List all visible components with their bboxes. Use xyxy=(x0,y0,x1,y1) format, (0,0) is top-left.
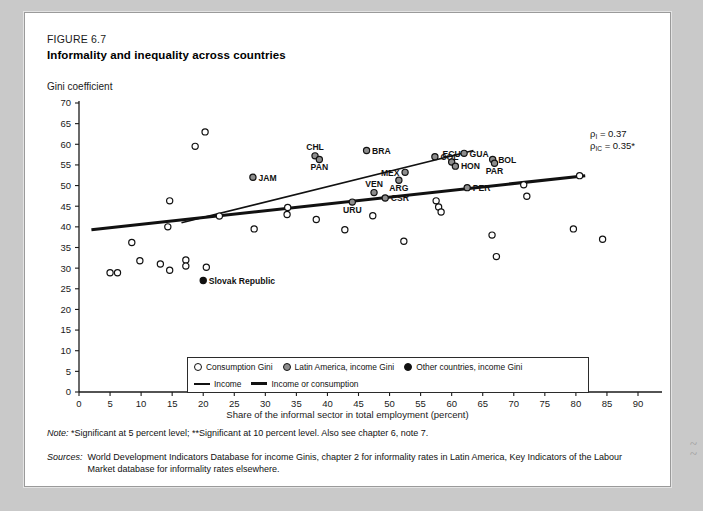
data-point xyxy=(284,211,290,217)
data-point xyxy=(438,209,444,215)
data-point xyxy=(401,238,407,244)
figure-note: Note: *Significant at 5 percent level; *… xyxy=(47,427,652,439)
data-point xyxy=(165,224,171,230)
point-label-gua: GUA xyxy=(470,149,489,159)
y-tick-label: 45 xyxy=(60,201,71,212)
figure-sources: Sources: World Development Indicators Da… xyxy=(47,451,652,475)
data-point-per xyxy=(464,185,470,191)
y-tick-label: 20 xyxy=(60,304,71,315)
figure-page: FIGURE 6.7 Informality and inequality ac… xyxy=(0,0,703,511)
data-point xyxy=(183,263,189,269)
x-tick-label: 0 xyxy=(76,398,81,409)
data-point xyxy=(167,198,173,204)
data-point xyxy=(157,261,163,267)
data-point-bra xyxy=(363,147,369,153)
data-point xyxy=(285,204,291,210)
x-tick-label: 50 xyxy=(384,398,395,409)
point-label-uru: URU xyxy=(343,205,362,215)
chart-canvas: 0510152025303540455055606570051015202530… xyxy=(25,13,670,413)
point-label-par: PAR xyxy=(486,166,504,176)
data-point xyxy=(137,258,143,264)
point-label-ven: VEN xyxy=(365,179,383,189)
data-point-hon xyxy=(452,163,458,169)
data-point-jam xyxy=(250,174,256,180)
legend-label: Income or consumption xyxy=(271,379,358,389)
chart-legend: Consumption Gini Latin America, income G… xyxy=(187,357,589,393)
data-point xyxy=(251,226,257,232)
y-tick-label: 65 xyxy=(60,118,71,129)
y-tick-label: 25 xyxy=(60,283,71,294)
x-tick-label: 20 xyxy=(198,398,209,409)
x-tick-label: 10 xyxy=(136,398,147,409)
x-tick-label: 90 xyxy=(633,398,644,409)
x-tick-label: 30 xyxy=(260,398,271,409)
point-label-arg: ARG xyxy=(389,183,408,193)
y-tick-label: 50 xyxy=(60,180,71,191)
figure-sheet: FIGURE 6.7 Informality and inequality ac… xyxy=(24,12,671,487)
data-point xyxy=(192,143,198,149)
y-tick-label: 5 xyxy=(66,366,71,377)
data-point-slovak-republic xyxy=(200,277,206,283)
x-tick-label: 55 xyxy=(415,398,426,409)
data-point xyxy=(129,239,135,245)
y-tick-label: 55 xyxy=(60,159,71,170)
data-point xyxy=(521,182,527,188)
y-tick-label: 60 xyxy=(60,139,71,150)
point-label-chl: CHL xyxy=(306,142,324,152)
x-tick-label: 15 xyxy=(167,398,178,409)
y-tick-label: 0 xyxy=(66,386,71,397)
x-tick-label: 25 xyxy=(229,398,240,409)
data-point xyxy=(167,267,173,273)
data-point xyxy=(216,213,222,219)
legend-label: Latin America, income Gini xyxy=(295,362,395,372)
point-label-per: PER xyxy=(473,183,491,193)
legend-item-income-or-consumption-line: Income or consumption xyxy=(251,379,358,389)
legend-label: Income xyxy=(214,379,241,389)
data-point xyxy=(114,270,120,276)
filled-circle-icon xyxy=(404,363,412,371)
x-tick-label: 75 xyxy=(540,398,551,409)
data-point-ven xyxy=(371,189,377,195)
data-point xyxy=(570,226,576,232)
data-point xyxy=(433,198,439,204)
legend-item-income-line: Income xyxy=(194,379,241,389)
data-point xyxy=(342,227,348,233)
point-label-slovak-republic: Slovak Republic xyxy=(209,276,276,286)
y-tick-label: 40 xyxy=(60,221,71,232)
point-label-jam: JAM xyxy=(258,173,276,183)
legend-label: Other countries, income Gini xyxy=(416,362,522,372)
data-point xyxy=(493,253,499,259)
note-prefix: Note: xyxy=(47,428,69,438)
legend-item-latin-america-income-gini: Latin America, income Gini xyxy=(283,362,395,372)
x-tick-label: 65 xyxy=(477,398,488,409)
x-tick-label: 80 xyxy=(571,398,582,409)
legend-item-consumption-gini: Consumption Gini xyxy=(194,362,273,372)
annotation-rho-income: ρI = 0.37 xyxy=(590,128,627,140)
data-point xyxy=(599,236,605,242)
legend-item-other-countries-income-gini: Other countries, income Gini xyxy=(404,362,522,372)
y-tick-label: 15 xyxy=(60,324,71,335)
annotation-rho-income-consumption: ρIC = 0.35* xyxy=(590,140,635,152)
x-tick-label: 5 xyxy=(107,398,112,409)
thick-line-icon xyxy=(251,382,267,385)
x-tick-label: 85 xyxy=(602,398,613,409)
data-point xyxy=(370,213,376,219)
thin-line-icon xyxy=(194,383,210,385)
point-label-bol: BOL xyxy=(498,155,516,165)
scatter-plot: 0510152025303540455055606570051015202530… xyxy=(25,13,670,486)
x-tick-label: 35 xyxy=(291,398,302,409)
point-label-csr: CSR xyxy=(391,193,410,203)
data-point-csr xyxy=(382,195,388,201)
data-point xyxy=(577,173,583,179)
page-artifact: ~~ xyxy=(690,439,697,459)
data-point xyxy=(183,257,189,263)
point-label-mex: MEX xyxy=(381,168,400,178)
y-tick-label: 10 xyxy=(60,345,71,356)
sources-prefix: Sources: xyxy=(47,451,83,475)
grey-circle-icon xyxy=(283,363,291,371)
x-tick-label: 60 xyxy=(446,398,457,409)
sources-text: World Development Indicators Database fo… xyxy=(88,451,652,475)
x-tick-label: 45 xyxy=(353,398,364,409)
data-point xyxy=(313,216,319,222)
y-tick-label: 70 xyxy=(60,97,71,108)
